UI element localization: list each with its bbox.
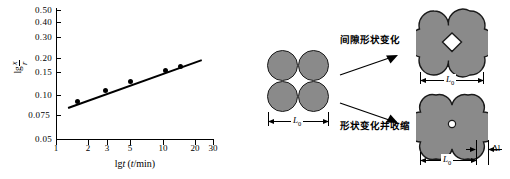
chart-data-point: [163, 68, 168, 73]
y-tick-mark: [56, 115, 61, 116]
dimension-label-lower: L0: [441, 154, 453, 166]
shrinkage-label: Δl: [492, 143, 500, 153]
figure-root: 0.50 0.40 0.30 0.20 0.15 0.10 0.075 0.05…: [0, 0, 510, 179]
y-tick-label: 0.40: [4, 17, 52, 27]
y-tick-label: 0.05: [4, 134, 52, 144]
y-tick-mark: [56, 10, 61, 11]
clover-shape-diamond-pore: [416, 8, 488, 78]
y-tick-mark: [56, 95, 61, 96]
chart-axis-frame: [56, 8, 214, 140]
y-tick-mark: [56, 22, 61, 23]
particle-circle: [298, 81, 329, 112]
y-tick-label: 0.10: [4, 90, 52, 100]
particle-circle: [267, 81, 298, 112]
x-tick-label: 2: [81, 143, 95, 153]
y-axis-title-prefix: lg: [13, 66, 23, 73]
y-tick-mark: [56, 37, 61, 38]
x-tick-label: 1: [49, 143, 63, 153]
dimension-label-initial: L0: [291, 115, 303, 127]
y-axis-title: lgxr: [10, 52, 28, 82]
y-axis-denominator: r: [20, 60, 29, 66]
y-tick-label: 0.30: [4, 32, 52, 42]
chart-data-point: [178, 64, 183, 69]
y-tick-mark: [56, 72, 61, 73]
chart-data-point: [103, 88, 108, 93]
x-tick-label: 3: [100, 143, 114, 153]
transition-label-lower: 形状变化并收缩: [340, 118, 410, 132]
particle-circle: [298, 50, 329, 81]
y-tick-label: 0.50: [4, 5, 52, 15]
sintering-diagram: L0 间隙形状变化 形状变化并收缩: [255, 0, 510, 179]
x-tick-label: 10: [156, 143, 170, 153]
x-axis-title: lgt (t/min): [56, 158, 214, 169]
y-axis-title-fraction: xr: [10, 60, 28, 66]
x-tick-label: 5: [123, 143, 137, 153]
x-tick-label: 30: [206, 143, 220, 153]
y-tick-mark: [56, 58, 61, 59]
x-tick-label: 20: [188, 143, 202, 153]
y-tick-label: 0.075: [2, 110, 50, 120]
transition-arrow-upper: [338, 52, 400, 78]
dimension-label-upper: L0: [444, 74, 456, 86]
particle-circle: [267, 50, 298, 81]
log-log-chart: 0.50 0.40 0.30 0.20 0.15 0.10 0.075 0.05…: [0, 0, 255, 179]
transition-label-upper: 间隙形状变化: [340, 32, 400, 46]
